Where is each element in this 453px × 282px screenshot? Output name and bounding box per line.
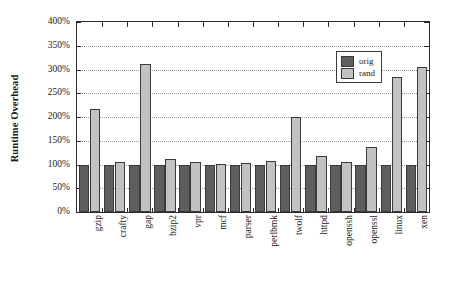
bar-rand-gzip [90,109,101,212]
bar-orig-vpr [179,165,190,213]
x-axis-tick-label: httpd [319,215,329,235]
bar-rand-bzip2 [165,159,176,212]
x-axis-tick-label: gzip [93,215,103,231]
chart-figure: Runtime Overhead 0%50%100%150%200%250%30… [0,0,453,282]
bar-rand-parser [241,163,252,212]
y-axis-tick-labels: 0%50%100%150%200%250%300%350%400% [24,0,74,282]
bar-orig-openssh [330,165,341,212]
bar-rand-openssl [366,147,377,212]
y-axis-tick-label: 150% [48,135,70,145]
y-axis-tick-label: 250% [48,87,70,97]
x-axis-tick-label: openssh [344,215,354,246]
y-axis-tick-label: 300% [48,64,70,74]
bar-orig-perlbmk [255,165,266,213]
x-axis-tick-label: bzip2 [168,215,178,236]
x-axis-tick-label: openssl [369,215,379,244]
x-axis-tick-label: twolf [294,215,304,235]
bar-rand-xen [417,67,428,212]
bar-rand-gap [140,64,151,212]
legend-label-orig: orig [359,56,374,66]
bar-orig-httpd [305,165,316,212]
y-axis-tick-label: 400% [48,16,70,26]
y-axis-tick-label: 200% [48,111,70,121]
bar-rand-twolf [291,117,302,212]
bar-orig-xen [406,165,417,212]
chart-legend: orig rand [336,51,382,83]
bar-orig-parser [230,165,241,213]
y-axis-tick-label: 100% [48,159,70,169]
legend-item-orig: orig [341,55,375,67]
x-axis-tick-labels: gzipcraftygapbzip2vprmcfparserperlbmktwo… [76,213,428,282]
bar-rand-perlbmk [266,161,277,212]
bar-rand-httpd [316,156,327,212]
x-axis-tick-label: vpr [193,215,203,228]
bar-orig-gzip [79,165,90,213]
bar-orig-crafty [104,165,115,213]
bar-rand-mcf [216,164,227,212]
bar-rand-openssh [341,162,352,212]
bar-rand-crafty [115,162,126,212]
bar-orig-bzip2 [154,165,165,212]
legend-label-rand: rand [359,68,375,78]
bar-orig-mcf [205,165,216,213]
bar-rand-vpr [190,162,201,212]
bar-orig-gap [129,165,140,213]
legend-swatch-rand-icon [341,68,354,79]
y-axis-tick-label: 350% [48,40,70,50]
x-axis-tick-label: parser [243,215,253,238]
legend-swatch-orig-icon [341,56,354,67]
bar-orig-linux [381,165,392,212]
x-axis-tick-label: linux [394,215,404,235]
x-axis-tick-label: crafty [118,215,128,237]
x-axis-tick-label: xen [419,215,429,229]
y-axis-tick-label: 50% [53,182,70,192]
y-axis-title-text: Runtime Overhead [10,74,21,162]
x-axis-tick-label: mcf [218,215,228,230]
x-axis-tick-label: gap [143,215,153,229]
bar-orig-openssl [355,165,366,212]
bar-rand-linux [392,77,403,212]
legend-item-rand: rand [341,67,375,79]
bar-orig-twolf [280,165,291,213]
plot-area: orig rand [76,21,430,213]
x-axis-tick-label: perlbmk [269,215,279,247]
y-axis-title: Runtime Overhead [6,48,24,188]
y-axis-tick-label: 0% [57,206,70,216]
